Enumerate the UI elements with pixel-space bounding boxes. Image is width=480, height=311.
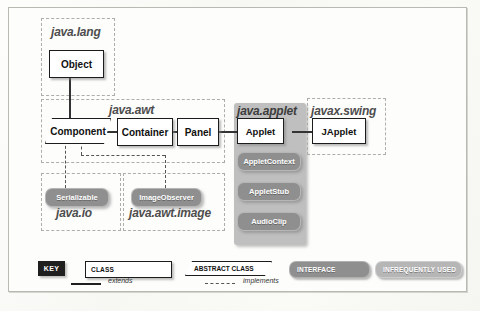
legend-infrequently-used-sample: INFREQUENTLY USED — [375, 261, 462, 278]
legend-infrequently-used-label: INFREQUENTLY USED — [383, 266, 456, 273]
legend-extends-line — [71, 283, 101, 285]
legend-key-box: KEY — [38, 261, 65, 276]
legend-extends-label: extends — [108, 277, 133, 284]
class-component-label: Component — [50, 126, 106, 137]
legend-key-label: KEY — [44, 265, 59, 272]
legend-class-label: CLASS — [91, 266, 114, 273]
legend-abstract-class-label: ABSTRACT CLASS — [185, 265, 254, 272]
legend-interface-label: INTERFACE — [297, 266, 336, 273]
legend-implements-label: implements — [243, 277, 279, 284]
legend-implements-line — [205, 283, 235, 284]
legend-abstract-class-sample: ABSTRACT CLASS — [185, 261, 272, 276]
legend-interface-sample: INTERFACE — [289, 261, 370, 278]
legend: KEY CLASS ABSTRACT CLASS INTERFACE INFRE… — [0, 0, 480, 311]
legend-class-sample: CLASS — [85, 261, 172, 278]
